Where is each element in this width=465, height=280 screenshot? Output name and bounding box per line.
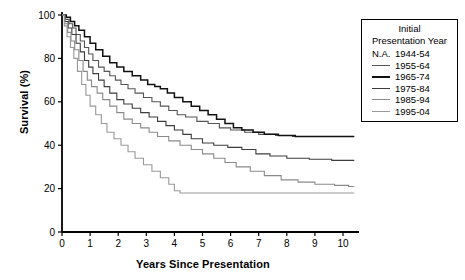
legend-item[interactable]: 1965-74 [362, 71, 457, 83]
legend-title-line1: Initial [364, 23, 455, 35]
x-tick-label: 2 [115, 238, 121, 249]
x-tick-label: 1 [87, 238, 93, 249]
legend-item-label: 1944-54 [395, 48, 430, 60]
legend-item[interactable]: 1975-84 [362, 83, 457, 95]
legend-line-swatch [372, 99, 390, 100]
survival-curve [62, 15, 354, 193]
survival-curve [62, 15, 354, 137]
x-tick-label: 0 [59, 238, 65, 249]
legend-title-line2: Presentation Year [364, 35, 455, 47]
legend-item[interactable]: 1995-04 [362, 106, 457, 118]
legend-item-label: 1985-94 [395, 94, 430, 106]
legend-item-label: 1975-84 [395, 83, 430, 95]
y-tick-label: 40 [44, 140, 56, 151]
survival-curve [62, 15, 354, 160]
y-tick-label: 100 [38, 10, 55, 21]
legend-line-swatch [372, 88, 390, 89]
legend-item[interactable]: 1985-94 [362, 94, 457, 106]
x-tick-label: 9 [312, 238, 318, 249]
survival-chart: Survival (%) Years Since Presentation 02… [0, 0, 465, 280]
y-tick-label: 60 [44, 96, 56, 107]
x-tick-label: 4 [172, 238, 178, 249]
legend-line-swatch [372, 76, 390, 78]
x-tick-label: 7 [256, 238, 262, 249]
legend-item-label: 1965-74 [395, 71, 430, 83]
x-tick-label: 3 [144, 238, 150, 249]
legend-item[interactable]: 1955-64 [362, 60, 457, 72]
x-tick-label: 6 [228, 238, 234, 249]
legend: Initial Presentation Year N.A.1944-54195… [361, 19, 458, 122]
x-tick-label: 10 [337, 238, 349, 249]
survival-curves [62, 15, 354, 193]
x-tick-label: 5 [200, 238, 206, 249]
y-tick-label: 20 [44, 183, 56, 194]
legend-na-marker: N.A. [372, 48, 390, 60]
y-tick-label: 80 [44, 53, 56, 64]
legend-line-swatch [372, 65, 390, 66]
survival-curve [62, 15, 354, 137]
survival-curve [62, 15, 354, 186]
legend-item-label: 1955-64 [395, 60, 430, 72]
axes: 020406080100012345678910 [38, 10, 359, 250]
legend-title: Initial Presentation Year [362, 23, 457, 46]
legend-rows: N.A.1944-541955-641965-741975-841985-941… [362, 48, 457, 117]
x-tick-label: 8 [284, 238, 290, 249]
legend-item[interactable]: N.A.1944-54 [362, 48, 457, 60]
legend-line-swatch [372, 111, 390, 112]
y-tick-label: 0 [49, 227, 55, 238]
legend-item-label: 1995-04 [395, 106, 430, 118]
